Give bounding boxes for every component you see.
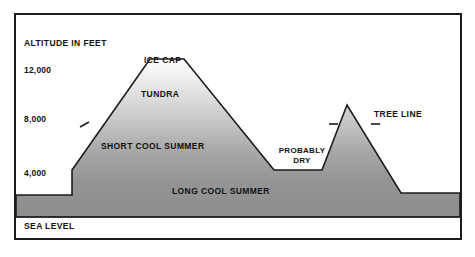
- sea-level-label: SEA LEVEL: [24, 222, 75, 231]
- altitude-zones-diagram: ALTITUDE IN FEET 12,000 8,000 4,000 SEA …: [0, 0, 475, 257]
- zone-label-tundra: TUNDRA: [141, 90, 179, 99]
- tree-line-tick-main-slope: [80, 122, 89, 127]
- zone-label-probably-dry: PROBABLY DRY: [271, 146, 333, 166]
- diagram-canvas: ALTITUDE IN FEET 12,000 8,000 4,000 SEA …: [16, 15, 460, 238]
- axis-tick-12000: 12,000: [24, 66, 51, 75]
- zone-label-long-cool-summer: LONG COOL SUMMER: [172, 187, 270, 196]
- zone-label-tree-line: TREE LINE: [374, 110, 422, 119]
- axis-title: ALTITUDE IN FEET: [24, 39, 107, 48]
- zone-label-ice-cap: ICE CAP: [144, 56, 181, 65]
- terrain-profile-svg: [16, 15, 460, 238]
- probably-dry-line-1: PROBABLY: [271, 146, 333, 156]
- diagram-frame: ALTITUDE IN FEET 12,000 8,000 4,000 SEA …: [14, 13, 462, 240]
- zone-label-short-cool-summer: SHORT COOL SUMMER: [101, 142, 204, 151]
- probably-dry-line-2: DRY: [271, 156, 333, 166]
- axis-tick-4000: 4,000: [24, 169, 46, 178]
- axis-tick-8000: 8,000: [24, 115, 46, 124]
